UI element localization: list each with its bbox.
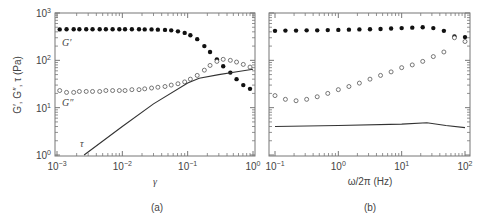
- g-double-prime-point: [315, 95, 319, 99]
- g-double-prime-point: [379, 73, 383, 77]
- x-tick-label: 10−2: [113, 160, 132, 172]
- g-prime-point: [104, 27, 108, 31]
- g-prime-point: [336, 28, 340, 32]
- x-tick-label: 102: [457, 160, 472, 172]
- g-double-prime-point: [150, 86, 154, 90]
- g-double-prime-point: [77, 89, 81, 93]
- g-prime-point: [421, 25, 425, 29]
- x-tick-label: 101: [394, 160, 409, 172]
- y-tick-label: 100: [36, 149, 51, 161]
- g-double-prime-point: [183, 80, 187, 84]
- g-double-prime-point: [65, 90, 69, 94]
- g-prime-point: [137, 27, 141, 31]
- g-double-prime-point: [410, 63, 414, 67]
- tau-curve: [275, 123, 465, 128]
- g-double-prime-point: [248, 65, 252, 69]
- g-double-prime-point: [221, 57, 225, 61]
- g-prime-point: [149, 27, 153, 31]
- annotation-g-double-prime: G″: [62, 97, 74, 108]
- x-tick-label: 10−3: [47, 160, 66, 172]
- x-axis-title-a: γ: [153, 176, 158, 187]
- panel-label-a: (a): [151, 202, 163, 213]
- g-double-prime-point: [235, 60, 239, 64]
- g-prime-point: [410, 25, 414, 29]
- g-prime-point: [442, 29, 446, 33]
- y-tick-label: 103: [36, 7, 51, 19]
- g-prime-point: [208, 50, 212, 54]
- g-prime-point: [143, 27, 147, 31]
- g-double-prime-point: [143, 87, 147, 91]
- g-prime-point: [97, 27, 101, 31]
- g-double-prime-point: [130, 88, 134, 92]
- g-prime-point: [188, 33, 192, 37]
- g-prime-point: [378, 27, 382, 31]
- g-double-prime-point: [72, 90, 76, 94]
- g-double-prime-point: [169, 83, 173, 87]
- rheology-figure: 10−310−210−1100100101102103 10−110010110…: [0, 0, 485, 219]
- g-prime-point: [176, 29, 180, 33]
- g-double-prime-point: [421, 59, 425, 63]
- g-double-prime-point: [208, 63, 212, 67]
- g-double-prime-point: [188, 77, 192, 81]
- g-prime-point: [326, 28, 330, 32]
- g-prime-point: [117, 27, 121, 31]
- g-prime-point: [90, 27, 94, 31]
- g-prime-point: [273, 29, 277, 33]
- g-prime-point: [156, 27, 160, 31]
- g-double-prime-point: [305, 97, 309, 101]
- g-double-prime-point: [452, 36, 456, 40]
- g-prime-point: [64, 27, 68, 31]
- panel-label-b: (b): [364, 202, 376, 213]
- plot-frame: [55, 13, 255, 156]
- g-double-prime-point: [91, 89, 95, 93]
- g-double-prime-point: [294, 99, 298, 103]
- g-prime-point: [71, 27, 75, 31]
- g-double-prime-point: [195, 73, 199, 77]
- g-prime-point: [182, 31, 186, 35]
- g-double-prime-point: [336, 88, 340, 92]
- g-prime-point: [347, 27, 351, 31]
- g-double-prime-point: [98, 89, 102, 93]
- g-prime-point: [304, 28, 308, 32]
- g-double-prime-point: [431, 55, 435, 59]
- g-double-prime-point: [176, 82, 180, 86]
- g-prime-point: [283, 28, 287, 32]
- g-prime-point: [123, 27, 127, 31]
- y-axis-title: G′, G″, τ (Pa): [12, 56, 23, 114]
- g-prime-point: [130, 27, 134, 31]
- g-double-prime-point: [228, 58, 232, 62]
- g-prime-point: [110, 27, 114, 31]
- g-prime-point: [221, 64, 225, 68]
- g-prime-point: [368, 27, 372, 31]
- g-double-prime-point: [84, 89, 88, 93]
- g-double-prime-point: [357, 81, 361, 85]
- g-prime-point: [58, 27, 62, 31]
- x-axis-title-b: ω/2π (Hz): [348, 176, 393, 187]
- g-prime-point: [163, 28, 167, 32]
- x-tick-label: 100: [245, 160, 260, 172]
- g-double-prime-point: [347, 85, 351, 89]
- g-prime-point: [294, 28, 298, 32]
- g-prime-point: [84, 27, 88, 31]
- g-double-prime-point: [123, 89, 127, 93]
- g-double-prime-point: [442, 50, 446, 54]
- g-double-prime-point: [58, 89, 62, 93]
- x-tick-label: 10−1: [265, 160, 284, 172]
- annotation-g-prime: G′: [62, 37, 72, 48]
- g-double-prime-point: [400, 66, 404, 70]
- g-double-prime-point: [163, 85, 167, 89]
- g-prime-point: [241, 83, 245, 87]
- g-prime-point: [315, 28, 319, 32]
- panel-b-plot: 10−1100101102: [265, 13, 472, 172]
- g-prime-point: [77, 27, 81, 31]
- g-double-prime-point: [202, 68, 206, 72]
- g-double-prime-point: [241, 62, 245, 66]
- plot-frame: [269, 13, 470, 156]
- annotation-tau: τ: [80, 138, 84, 149]
- g-double-prime-point: [326, 91, 330, 95]
- g-prime-point: [234, 77, 238, 81]
- g-prime-point: [357, 27, 361, 31]
- g-double-prime-point: [137, 88, 141, 92]
- g-double-prime-point: [368, 77, 372, 81]
- y-tick-label: 101: [36, 102, 51, 114]
